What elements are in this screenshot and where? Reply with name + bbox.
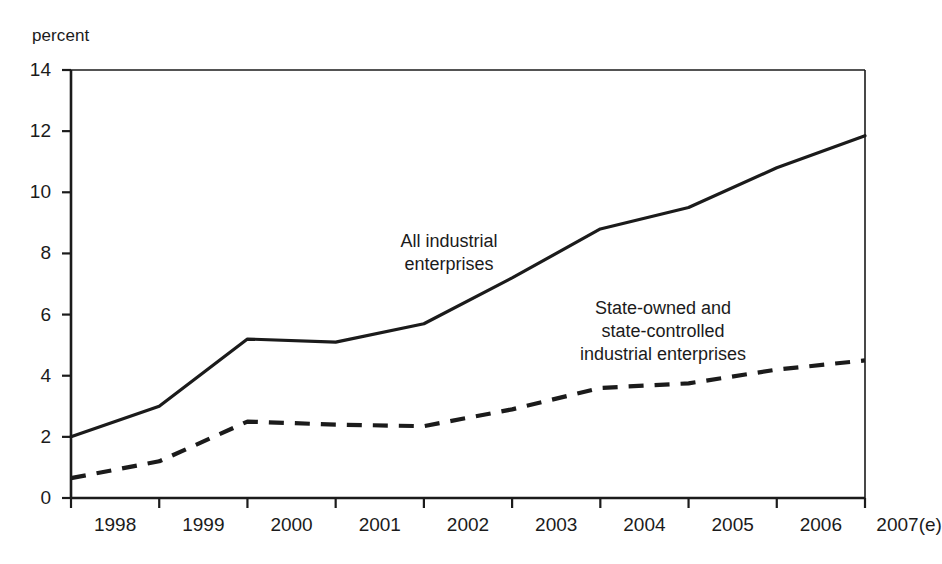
annot-state-owned: State-owned and state-controlled industr… bbox=[580, 297, 746, 366]
series-line-state-owned bbox=[71, 360, 865, 478]
series-line-all-industrial bbox=[71, 136, 865, 437]
x-axis-tick-label: 2001 bbox=[359, 514, 401, 536]
y-axis-tick-label: 2 bbox=[7, 426, 51, 448]
x-axis-tick-label: 2003 bbox=[535, 514, 577, 536]
y-axis-tick-label: 6 bbox=[7, 304, 51, 326]
y-axis-tick-label: 4 bbox=[7, 365, 51, 387]
y-axis-tick-label: 12 bbox=[7, 120, 51, 142]
annot-all-industrial: All industrial enterprises bbox=[400, 230, 497, 276]
x-axis-tick-label: 1999 bbox=[182, 514, 224, 536]
y-axis-tick-label: 14 bbox=[7, 59, 51, 81]
x-axis-tick-label: 2007(e) bbox=[876, 514, 942, 536]
x-axis-tick-label: 1998 bbox=[94, 514, 136, 536]
x-axis-tick-label: 2002 bbox=[447, 514, 489, 536]
y-axis-tick-label: 8 bbox=[7, 242, 51, 264]
x-axis-tick-label: 2005 bbox=[712, 514, 754, 536]
y-axis-tick-label: 10 bbox=[7, 181, 51, 203]
x-axis-tick-label: 2004 bbox=[623, 514, 665, 536]
x-axis-tick-label: 2000 bbox=[270, 514, 312, 536]
x-axis-tick-label: 2006 bbox=[800, 514, 842, 536]
y-axis-tick-label: 0 bbox=[7, 487, 51, 509]
